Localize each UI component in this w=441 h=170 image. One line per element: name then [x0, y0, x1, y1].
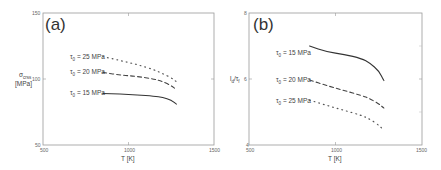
panel-a-xtick-500: 500 — [40, 147, 49, 153]
panel-a-legend-15: τ0 = 15 MPa — [70, 89, 105, 98]
panel-a-curves — [103, 57, 177, 105]
panel-a-xtick-1500: 1500 — [209, 147, 220, 153]
panel-b-legend-15: τ0 = 15 MPa — [276, 49, 311, 58]
curve-025mpa — [103, 57, 177, 82]
panel-a-ylabel: σcrss — [19, 71, 32, 80]
curve-020mpa — [103, 72, 177, 89]
panel-b-ytick-6: 6 — [244, 76, 247, 82]
panel-a-legend-20: τ0 = 20 MPa — [70, 68, 105, 77]
panel-b-legend-25: τ0 = 25 MPa — [276, 97, 311, 106]
panel-b-xtick-1000: 1000 — [331, 147, 342, 153]
panel-b-curves — [310, 46, 384, 130]
panel-a: 500 1000 1500 150 100 50 (a) σcrss [MPa]… — [15, 10, 220, 163]
panel-a-xtick-1000: 1000 — [124, 147, 135, 153]
curve-020mpa — [310, 80, 384, 108]
panel-b-label: (b) — [253, 15, 274, 34]
panel-b-ytick-4: 4 — [246, 142, 249, 148]
panel-a-ylabel-unit: [MPa] — [15, 80, 32, 88]
panel-a-legend-25: τ0 = 25 MPa — [70, 53, 105, 62]
curve-015mpa — [310, 46, 384, 81]
panel-b-ytick-8: 8 — [244, 10, 247, 16]
panel-b-ylabel: ld/τf — [230, 75, 240, 84]
panel-a-ytick-150: 150 — [32, 10, 41, 16]
figure: 500 1000 1500 150 100 50 (a) σcrss [MPa]… — [0, 0, 441, 170]
panel-a-xlabel: T [K] — [121, 155, 135, 163]
panel-b-xtick-1500: 1500 — [416, 147, 427, 153]
panel-a-axes-box — [43, 13, 214, 145]
panel-a-label: (a) — [45, 15, 66, 34]
panel-b-xlabel: T [K] — [328, 155, 342, 163]
panel-a-ytick-100: 100 — [32, 76, 41, 82]
curve-025mpa — [310, 100, 384, 130]
panel-b: 500 1000 1500 8 6 4 (b) ld/τf T [K] τ0 =… — [230, 10, 427, 163]
panel-b-legend-20: τ0 = 20 MPa — [276, 76, 311, 85]
curve-015mpa — [103, 94, 177, 105]
panel-a-ytick-50: 50 — [35, 142, 41, 148]
panel-b-axes-box — [249, 13, 422, 145]
